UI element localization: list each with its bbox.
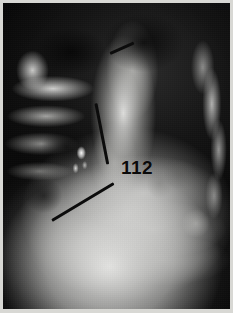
pointer-line-middle xyxy=(95,103,110,164)
pointer-line-lower xyxy=(51,182,114,222)
figure-number-label: 112 xyxy=(121,158,153,177)
radiograph-figure-plate: 112 xyxy=(0,0,233,313)
radiograph-image: 112 xyxy=(3,3,230,309)
pointer-line-upper xyxy=(109,42,134,55)
